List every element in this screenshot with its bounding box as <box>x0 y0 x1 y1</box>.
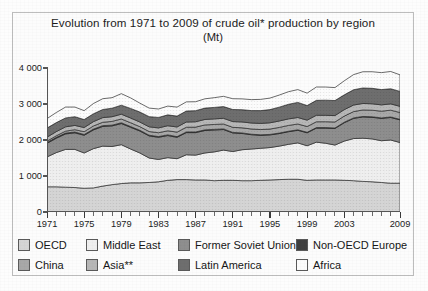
x-axis-minor-tick <box>353 212 354 216</box>
legend-item[interactable]: China <box>18 259 64 271</box>
plot-frame <box>47 68 400 212</box>
x-axis-major-tick <box>232 212 233 218</box>
x-axis-minor-tick <box>167 212 168 216</box>
x-axis-major-tick <box>121 212 122 218</box>
legend-label: OECD <box>35 240 67 251</box>
legend-row: ChinaAsia**Latin AmericaAfrica <box>18 259 410 279</box>
y-axis-tick-label: 4 000 <box>0 63 48 73</box>
legend-swatch-icon <box>18 239 30 251</box>
x-axis-tick-label: 1975 <box>74 219 95 229</box>
x-axis-minor-tick <box>214 212 215 216</box>
chart-plot-area <box>47 68 400 212</box>
x-axis-minor-tick <box>56 212 57 216</box>
x-axis-minor-tick <box>93 212 94 216</box>
x-axis-tick-label: 1983 <box>148 219 169 229</box>
x-axis-major-tick <box>307 212 308 218</box>
x-axis-minor-tick <box>139 212 140 216</box>
x-axis-minor-tick <box>149 212 150 216</box>
x-axis-minor-tick <box>177 212 178 216</box>
x-axis-minor-tick <box>65 212 66 216</box>
x-axis-minor-tick <box>279 212 280 216</box>
x-axis-major-tick <box>158 212 159 218</box>
x-axis-minor-tick <box>112 212 113 216</box>
x-axis-minor-tick <box>130 212 131 216</box>
x-axis-minor-tick <box>260 212 261 216</box>
chart-unit-subtitle: (Mt) <box>13 31 413 43</box>
x-axis-tick-label: 1979 <box>111 219 132 229</box>
legend-label: Former Soviet Union <box>195 240 296 251</box>
y-axis-tick-label: 0 <box>0 207 48 217</box>
legend-label: Asia** <box>103 260 133 271</box>
legend-item[interactable]: Former Soviet Union <box>178 239 296 251</box>
x-axis-minor-tick <box>102 212 103 216</box>
x-axis-major-tick <box>344 212 345 218</box>
x-axis-tick-label: 1999 <box>297 219 318 229</box>
x-axis-major-tick <box>195 212 196 218</box>
x-axis-major-tick <box>400 212 401 218</box>
x-axis-tick-label: 2003 <box>334 219 355 229</box>
figure-page: Evolution from 1971 to 2009 of crude oil… <box>0 0 428 291</box>
x-axis-minor-tick <box>223 212 224 216</box>
legend-swatch-icon <box>18 259 30 271</box>
x-axis-ticks <box>47 212 400 218</box>
x-axis-minor-tick <box>334 212 335 216</box>
chart-title-block: Evolution from 1971 to 2009 of crude oil… <box>13 16 413 43</box>
x-axis-minor-tick <box>390 212 391 216</box>
chart-legend: OECDMiddle EastFormer Soviet UnionNon-OE… <box>18 239 410 279</box>
x-axis-major-tick <box>84 212 85 218</box>
legend-label: Africa <box>313 260 341 271</box>
legend-item[interactable]: Latin America <box>178 259 262 271</box>
y-axis-tick-label: 2 000 <box>0 135 48 145</box>
legend-swatch-icon <box>86 259 98 271</box>
y-axis-tick-label: 3 000 <box>0 99 48 109</box>
legend-swatch-icon <box>178 239 190 251</box>
x-axis-minor-tick <box>325 212 326 216</box>
legend-swatch-icon <box>296 239 308 251</box>
x-axis-minor-tick <box>251 212 252 216</box>
legend-label: China <box>35 260 64 271</box>
legend-swatch-icon <box>178 259 190 271</box>
x-axis-minor-tick <box>372 212 373 216</box>
x-axis-tick-label: 2009 <box>390 219 411 229</box>
x-axis-minor-tick <box>204 212 205 216</box>
x-axis-minor-tick <box>288 212 289 216</box>
legend-swatch-icon <box>296 259 308 271</box>
chart-title: Evolution from 1971 to 2009 of crude oil… <box>13 16 413 29</box>
legend-item[interactable]: Middle East <box>86 239 160 251</box>
x-axis-tick-label: 1995 <box>260 219 281 229</box>
legend-label: Latin America <box>195 260 262 271</box>
x-axis-minor-tick <box>362 212 363 216</box>
x-axis-minor-tick <box>242 212 243 216</box>
legend-label: Non-OECD Europe <box>313 240 407 251</box>
legend-item[interactable]: OECD <box>18 239 67 251</box>
x-axis-minor-tick <box>316 212 317 216</box>
legend-row: OECDMiddle EastFormer Soviet UnionNon-OE… <box>18 239 410 259</box>
x-axis-major-tick <box>269 212 270 218</box>
x-axis-tick-label: 1991 <box>222 219 243 229</box>
x-axis-tick-label: 1971 <box>37 219 58 229</box>
legend-label: Middle East <box>103 240 160 251</box>
x-axis-minor-tick <box>297 212 298 216</box>
x-axis-tick-label: 1987 <box>185 219 206 229</box>
y-axis-tick-label: 1 000 <box>0 171 48 181</box>
x-axis-minor-tick <box>186 212 187 216</box>
legend-item[interactable]: Asia** <box>86 259 133 271</box>
x-axis-minor-tick <box>74 212 75 216</box>
legend-item[interactable]: Africa <box>296 259 341 271</box>
legend-item[interactable]: Non-OECD Europe <box>296 239 407 251</box>
legend-swatch-icon <box>86 239 98 251</box>
x-axis-minor-tick <box>381 212 382 216</box>
